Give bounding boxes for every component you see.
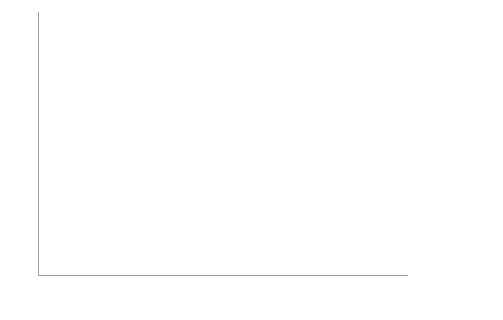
bar-chart: [0, 0, 503, 320]
plot-area: [38, 12, 408, 276]
legend: [414, 120, 500, 124]
